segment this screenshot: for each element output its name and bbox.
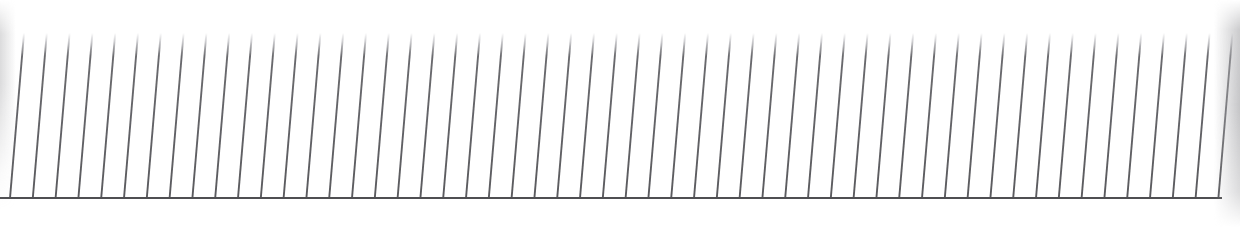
grating-scene [0, 0, 1240, 247]
image-canvas: Slanted vertical line grating above a ho… [0, 0, 1240, 247]
paper-background [0, 0, 1240, 247]
